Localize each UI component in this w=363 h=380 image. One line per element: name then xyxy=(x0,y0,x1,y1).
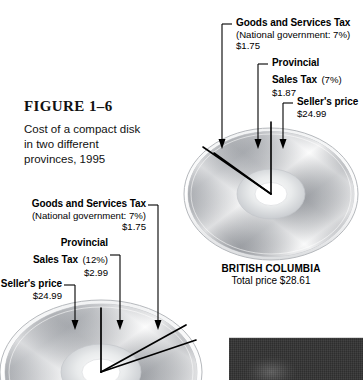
second-sellers-price-callout: Seller's price $24.99 xyxy=(0,278,62,301)
second-pst-title-line-2-row: Sales Tax (12%) xyxy=(0,249,108,267)
second-pst-title-line-1: Provincial xyxy=(0,237,108,249)
bc-pst-title-line-1: Provincial xyxy=(272,57,342,69)
cd-case-photo xyxy=(229,337,363,380)
bc-gst-detail: (National government: 7%) xyxy=(236,29,350,41)
bc-disk-caption: BRITISH COLUMBIA Total price $28.61 xyxy=(186,263,356,286)
second-sellers-price-title: Seller's price xyxy=(0,278,62,290)
second-sellers-price-amount: $24.99 xyxy=(0,290,62,302)
second-gst-detail: (National government: 7%) xyxy=(0,210,146,222)
bc-sellers-price-title: Seller's price xyxy=(297,96,358,108)
second-gst-title: Goods and Services Tax xyxy=(0,198,146,210)
second-pst-rate: (12%) xyxy=(82,254,108,265)
second-pst-title-line-2: Sales Tax xyxy=(33,254,78,265)
bc-gst-title: Goods and Services Tax xyxy=(236,17,350,29)
bc-province-name: BRITISH COLUMBIA xyxy=(186,263,356,274)
second-gst-callout: Goods and Services Tax (National governm… xyxy=(0,198,146,233)
bc-total-price: Total price $28.61 xyxy=(186,275,356,286)
bc-pst-title-line-2-row: Sales Tax (7%) xyxy=(272,69,342,87)
bc-pst-title-line-2: Sales Tax xyxy=(272,74,317,85)
second-gst-amount: $1.75 xyxy=(0,221,146,233)
second-pst-amount: $2.99 xyxy=(0,267,108,279)
second-pst-callout: Provincial Sales Tax (12%) $2.99 xyxy=(0,237,108,278)
bc-sellers-price-amount: $24.99 xyxy=(297,108,358,120)
bc-pst-rate: (7%) xyxy=(321,74,341,85)
bc-gst-callout: Goods and Services Tax (National governm… xyxy=(236,17,350,52)
bc-sellers-price-callout: Seller's price $24.99 xyxy=(297,96,358,119)
bc-pst-callout: Provincial Sales Tax (7%) $1.87 xyxy=(272,57,342,98)
bc-gst-amount: $1.75 xyxy=(236,40,350,52)
figure-canvas: FIGURE 1–6 Cost of a compact disk in two… xyxy=(0,0,363,380)
